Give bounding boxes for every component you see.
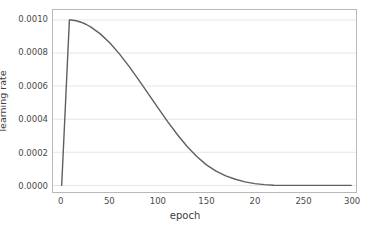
x-tick-label: 0: [58, 197, 63, 206]
y-tick-label: 0.0000: [18, 182, 48, 191]
learning-rate-curve: [53, 10, 356, 192]
x-axis-title: epoch: [0, 211, 370, 221]
x-tick-label: 50: [104, 197, 115, 206]
y-tick-label: 0.0002: [18, 149, 48, 158]
y-tick-label: 0.0008: [18, 48, 48, 57]
learning-rate-chart: 0.00000.00020.00040.00060.00080.0010 050…: [0, 0, 370, 233]
x-tick-label: 100: [150, 197, 166, 206]
y-tick-label: 0.0004: [18, 115, 48, 124]
y-axis-title: learning rate: [0, 70, 8, 131]
x-tick-label: 150: [198, 197, 214, 206]
x-tick-label: 20: [250, 197, 261, 206]
x-tick-label: 300: [344, 197, 360, 206]
y-tick-label: 0.0010: [18, 15, 48, 24]
x-tick-label: 250: [295, 197, 311, 206]
plot-area: [52, 9, 357, 193]
y-tick-label: 0.0006: [18, 82, 48, 91]
